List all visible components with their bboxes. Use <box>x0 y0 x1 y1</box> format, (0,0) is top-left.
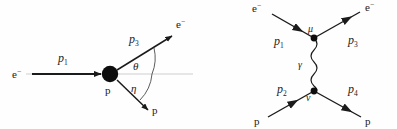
outgoing-electron-arrow <box>117 36 172 70</box>
theta-angle-label: θ <box>133 60 139 72</box>
momentum-3-label: p3 <box>347 33 358 49</box>
momentum-4-label: p4 <box>347 82 358 98</box>
in-proton-label: p <box>254 115 260 127</box>
in-electron-label: e− <box>252 1 261 14</box>
eta-angle-arc <box>140 74 152 100</box>
incoming-momentum-label: p1 <box>57 51 68 67</box>
out-proton-label: p <box>365 115 371 127</box>
theta-angle-arc <box>152 48 155 74</box>
eta-angle-label: η <box>131 82 136 94</box>
physics-figure: e− p1 p p3 e− p θ η <box>0 0 397 129</box>
momentum-1-label: p1 <box>273 34 284 50</box>
incoming-electron-label: e− <box>12 67 21 80</box>
photon-propagator-wavy-line <box>311 38 317 91</box>
upper-vertex-dot <box>311 35 318 42</box>
out-electron-label: e− <box>365 0 374 13</box>
momentum-2-label: p2 <box>276 82 287 98</box>
target-proton-vertex <box>102 66 118 82</box>
outgoing-proton-label: p <box>152 104 158 116</box>
right-feynman-panel: e− e− p p p1 p2 p3 p4 μ ν γ <box>198 0 397 129</box>
upper-vertex-index-label: μ <box>307 23 313 34</box>
outgoing-electron-momentum-label: p3 <box>128 32 139 48</box>
left-diagram-svg: e− p1 p p3 e− p θ η <box>0 0 198 129</box>
photon-label: γ <box>298 59 303 70</box>
target-proton-label: p <box>105 84 111 96</box>
right-diagram-svg: e− e− p p p1 p2 p3 p4 μ ν γ <box>198 0 397 129</box>
outgoing-electron-label: e− <box>176 17 185 30</box>
left-kinematic-panel: e− p1 p p3 e− p θ η <box>0 0 198 129</box>
lower-vertex-dot <box>311 88 318 95</box>
lower-vertex-index-label: ν <box>306 92 311 103</box>
